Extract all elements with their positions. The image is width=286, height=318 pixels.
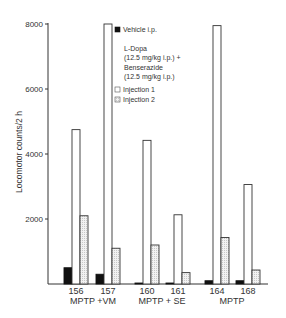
x-tick-label-168: 168 [240,286,255,296]
x-group-label-0: MPTP +VM [70,296,116,306]
bar-160-injection2 [151,245,159,284]
legend-treatment-line-1: L-Dopa [124,45,147,53]
legend-swatch-injection1 [115,87,120,92]
bar-group-156 [64,130,88,284]
x-group-label-2: MPTP [219,296,244,306]
x-tick-label-161: 161 [170,286,185,296]
bar-168-vehicle [236,281,244,284]
bar-168-injection1 [244,185,252,284]
x-group-label-1: MPTP + SE [138,296,185,306]
bar-160-injection1 [143,140,151,284]
y-tick-label-6000: 6000 [25,85,43,94]
legend-swatch-vehicle [115,27,120,32]
bar-group-157 [96,24,120,284]
legend-swatch-injection2 [115,97,120,102]
bar-157-vehicle [96,274,104,284]
bar-161-vehicle [166,283,174,284]
y-axis: 2000400060008000 Locomotor counts/2 h [14,20,48,284]
y-tick-label-2000: 2000 [25,215,43,224]
bar-160-vehicle [135,283,143,284]
bar-group-164 [205,26,229,284]
x-tick-label-156: 156 [68,286,83,296]
legend-treatment-line-4: (12.5 mg/kg i.p.) [124,73,175,81]
bar-164-vehicle [205,281,213,284]
bar-group-160 [135,140,159,284]
bar-group-161 [166,215,190,284]
bar-157-injection2 [112,248,120,284]
x-axis: 156157160161164168 MPTP +VMMPTP + SEMPTP [48,284,268,306]
locomotor-bar-chart: 2000400060008000 Locomotor counts/2 h 15… [0,0,286,318]
bars [64,24,260,284]
bar-161-injection1 [174,215,182,284]
y-tick-label-8000: 8000 [25,20,43,29]
bar-156-injection1 [72,130,80,284]
legend-treatment-line-2: (12.5 mg/kg i.p.) + [124,54,181,62]
legend-treatment-line-3: Benserazide [124,64,163,71]
legend: Vehicle i.p. L-Dopa (12.5 mg/kg i.p.) + … [115,26,181,104]
bar-157-injection1 [104,24,112,284]
legend-label-injection1: Injection 1 [123,86,155,94]
bar-161-injection2 [182,273,190,284]
bar-164-injection1 [213,26,221,284]
y-axis-label: Locomotor counts/2 h [14,111,24,193]
x-tick-label-164: 164 [209,286,224,296]
y-tick-label-4000: 4000 [25,150,43,159]
legend-label-vehicle: Vehicle i.p. [123,26,157,34]
bar-156-vehicle [64,268,72,284]
bar-156-injection2 [80,216,88,284]
legend-label-injection2: Injection 2 [123,96,155,104]
x-tick-label-160: 160 [139,286,154,296]
bar-group-168 [236,185,260,284]
bar-168-injection2 [252,270,260,284]
x-tick-label-157: 157 [100,286,115,296]
bar-164-injection2 [221,238,229,284]
